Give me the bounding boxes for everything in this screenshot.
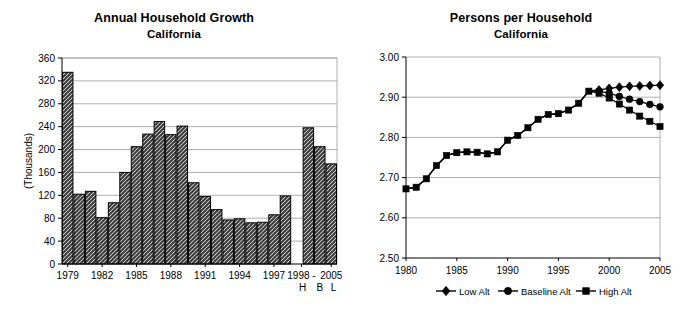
legend-marker-square: [583, 288, 590, 295]
bar: [131, 147, 141, 264]
xtick-sublabel-h: H: [299, 282, 306, 293]
bar: [74, 194, 84, 264]
ytick-label: 2.70: [380, 172, 400, 183]
bar: [246, 223, 256, 264]
ytick-label: 2.90: [380, 92, 400, 103]
bar: [154, 122, 164, 264]
xtick-label: 2005: [649, 265, 672, 276]
legend-marker-diamond: [442, 286, 450, 296]
ytick-label: 0: [49, 259, 55, 270]
bar: [303, 128, 313, 264]
ytick-label: 3.00: [380, 52, 400, 63]
bar: [315, 147, 325, 264]
line-chart-plot-area: 2.502.602.702.802.903.001980198519901995…: [348, 0, 694, 314]
xtick-label: 1979: [57, 270, 80, 281]
xtick-label: 1991: [194, 270, 217, 281]
data-point-square: [616, 101, 622, 107]
data-point-diamond: [656, 81, 663, 90]
xtick-label: 2000: [598, 265, 621, 276]
chart-page: Annual Household Growth California 04080…: [0, 0, 694, 314]
bar: [223, 220, 233, 264]
data-point-diamond: [636, 81, 643, 90]
chart-panel-annual-household-growth: Annual Household Growth California 04080…: [0, 0, 348, 314]
ytick-label: 280: [38, 98, 55, 109]
ytick-label: 120: [38, 190, 55, 201]
legend-item-low-alt: Low Alt: [436, 286, 490, 297]
xtick-sublabel-l: L: [331, 282, 337, 293]
bar: [189, 183, 199, 264]
data-point-square: [657, 123, 663, 129]
xtick-label: 1980: [395, 265, 418, 276]
bar-chart-plot-area: 0408012016020024028032036019791982198519…: [0, 0, 348, 314]
xtick-label: 1994: [228, 270, 251, 281]
data-point-square: [647, 118, 653, 124]
xtick-label: 1995: [547, 265, 570, 276]
ytick-label: 2.50: [380, 253, 400, 264]
legend-label: High Alt: [599, 286, 632, 297]
series-baseline-alt: [406, 88, 663, 189]
ytick-label: 160: [38, 167, 55, 178]
data-point-diamond: [626, 82, 633, 91]
ytick-label: 2.80: [380, 132, 400, 143]
bar: [211, 210, 221, 264]
ytick-label: 360: [38, 53, 55, 64]
data-point-circle: [657, 103, 664, 110]
y-axis-title: (Thousands): [23, 133, 34, 189]
ytick-label: 2.60: [380, 212, 400, 223]
data-point-diamond: [616, 83, 623, 92]
legend-label: Baseline Alt: [521, 286, 571, 297]
bar: [97, 218, 107, 264]
xtick-label: 2005: [320, 270, 343, 281]
data-point-circle: [646, 101, 653, 108]
legend-item-baseline-alt: Baseline Alt: [498, 286, 571, 297]
legend-item-high-alt: High Alt: [576, 286, 632, 297]
bar: [177, 126, 187, 264]
ytick-label: 40: [44, 236, 56, 247]
bar: [108, 203, 118, 264]
bar: [280, 196, 290, 264]
data-point-circle: [636, 98, 643, 105]
bar: [234, 219, 244, 264]
bar: [269, 215, 279, 264]
xtick-label: 1988: [160, 270, 183, 281]
data-point-circle: [626, 96, 633, 103]
bar: [166, 135, 176, 264]
data-point-square: [637, 113, 643, 119]
bar: [120, 172, 130, 264]
ytick-label: 320: [38, 75, 55, 86]
xtick-label: 1997: [263, 270, 286, 281]
bar: [257, 222, 267, 264]
xtick-label: 1985: [125, 270, 148, 281]
data-point-circle: [616, 93, 623, 100]
ytick-label: 200: [38, 144, 55, 155]
legend-label: Low Alt: [459, 286, 490, 297]
xtick-sublabel-b: B: [316, 282, 323, 293]
ytick-label: 240: [38, 121, 55, 132]
chart-panel-persons-per-household: Persons per Household California 2.502.6…: [348, 0, 694, 314]
bar: [200, 196, 210, 264]
data-point-diamond: [646, 81, 653, 90]
legend-marker-circle: [504, 287, 511, 294]
bar: [326, 164, 336, 264]
bar: [143, 134, 153, 264]
xtick-label: 1982: [91, 270, 114, 281]
line-chart-legend: Low AltBaseline AltHigh Alt: [436, 286, 632, 297]
xtick-label: 1985: [446, 265, 469, 276]
data-point-square: [626, 107, 632, 113]
xtick-label: 1990: [496, 265, 519, 276]
series-high-alt: [403, 88, 663, 192]
xtick-label: 1998 -: [287, 270, 315, 281]
bar: [63, 72, 73, 264]
bar: [85, 191, 95, 264]
ytick-label: 80: [44, 213, 56, 224]
bar-chart-bars: [63, 72, 337, 264]
